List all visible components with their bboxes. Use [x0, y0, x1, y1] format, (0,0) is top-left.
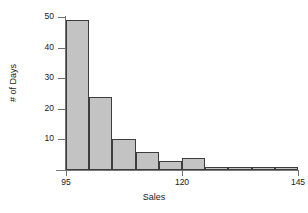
- histogram-bar: [112, 139, 135, 170]
- plot-area: [66, 14, 298, 170]
- y-axis-tick: [58, 109, 66, 110]
- y-axis-tick: [58, 48, 66, 49]
- x-axis-tick: [298, 170, 299, 176]
- histogram-bar: [275, 167, 298, 170]
- histogram-bar: [89, 97, 112, 170]
- x-axis-line: [56, 170, 298, 171]
- y-axis-tick-label: 20: [28, 104, 54, 113]
- histogram-bar: [159, 161, 182, 170]
- x-axis-tick-label: 145: [278, 178, 308, 187]
- y-axis-tick: [58, 17, 66, 18]
- histogram-bar: [182, 158, 205, 170]
- y-axis-tick-label: 30: [28, 73, 54, 82]
- histogram-bar: [66, 20, 89, 170]
- y-axis-tick: [58, 78, 66, 79]
- y-axis-tick: [58, 139, 66, 140]
- x-axis-tick: [66, 170, 67, 176]
- x-axis-title: Sales: [0, 192, 308, 202]
- histogram-bar: [205, 167, 228, 170]
- y-axis-tick-label: 50: [28, 12, 54, 21]
- y-axis-tick-label: 10: [28, 134, 54, 143]
- histogram-bar: [228, 167, 251, 170]
- y-axis-title: # of Days: [8, 48, 18, 118]
- histogram-figure: 1020304050 95120145 Sales # of Days: [0, 0, 308, 213]
- histogram-bar: [252, 167, 275, 170]
- histogram-bar: [136, 152, 159, 170]
- x-axis-tick-label: 95: [46, 178, 86, 187]
- y-axis-tick-label: 40: [28, 43, 54, 52]
- x-axis-tick: [182, 170, 183, 176]
- x-axis-tick-label: 120: [162, 178, 202, 187]
